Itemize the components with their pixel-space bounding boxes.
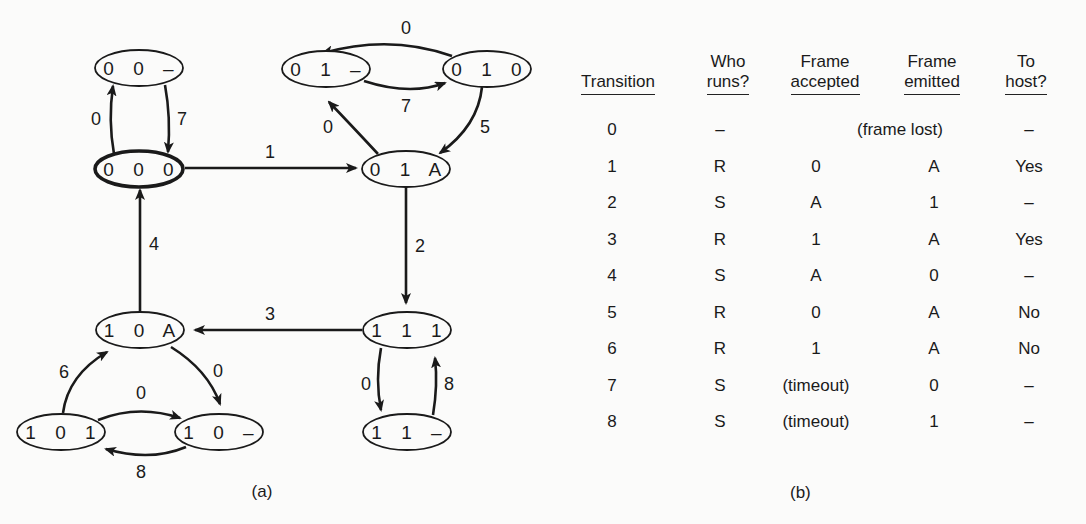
cell-to-host: Yes <box>989 157 1069 177</box>
state-diagram: 0 0 – 0 0 0 0 1 – 0 1 0 0 1 A 1 0 A 1 1 … <box>0 0 560 524</box>
cell-transition: 8 <box>572 412 652 432</box>
cell-to-host: – <box>989 266 1069 286</box>
edge-label-010-01-: 0 <box>401 18 411 38</box>
state-label-10A: 1 0 A <box>104 320 182 341</box>
edge-label-010-01A: 5 <box>480 117 490 137</box>
header-to-host: To host? <box>990 52 1062 95</box>
edge-label-101-10A: 6 <box>59 362 69 382</box>
edge-label-101-10-: 0 <box>136 383 146 403</box>
edge-label-111-11-: 0 <box>361 374 371 394</box>
caption-a: (a) <box>252 482 273 501</box>
state-label-101: 1 0 1 <box>25 422 102 443</box>
state-label-01-: 0 1 – <box>290 59 367 80</box>
cell-to-host: – <box>989 120 1069 140</box>
edge-label-10--101: 8 <box>136 462 146 482</box>
state-label-11-: 1 1 – <box>371 422 448 443</box>
edge-111-to-11- <box>378 348 381 410</box>
header-who-runs: Who runs? <box>688 52 768 95</box>
edge-label-111-10A: 3 <box>265 304 275 324</box>
edge-label-00--000: 7 <box>177 109 187 129</box>
cell-transition: 1 <box>572 157 652 177</box>
cell-transition: 3 <box>572 230 652 250</box>
edge-label-10A-000: 4 <box>149 234 159 254</box>
cell-to-host: – <box>989 376 1069 396</box>
edge-label-10A-10-: 0 <box>213 361 223 381</box>
edge-11--to-111 <box>433 358 436 415</box>
state-label-010: 0 1 0 <box>451 59 528 80</box>
edge-label-000-00-: 0 <box>91 109 101 129</box>
header-frame-emitted: Frame emitted <box>882 52 982 95</box>
state-label-111: 1 1 1 <box>371 320 448 341</box>
cell-transition: 0 <box>572 120 652 140</box>
cell-transition: 2 <box>572 193 652 213</box>
edge-label-000-01A: 1 <box>265 142 275 162</box>
cell-to-host: No <box>989 339 1069 359</box>
state-label-01A: 0 1 A <box>370 159 448 180</box>
cell-accepted: (frame lost) <box>830 120 970 140</box>
cell-transition: 4 <box>572 266 652 286</box>
transition-table: Transition Who runs? Frame accepted Fram… <box>560 0 1086 524</box>
edge-010-to-01A <box>440 87 482 153</box>
cell-to-host: No <box>989 303 1069 323</box>
cell-to-host: – <box>989 193 1069 213</box>
state-label-10-: 1 0 – <box>183 422 260 443</box>
edge-label-11--111: 8 <box>444 374 454 394</box>
cell-to-host: – <box>989 412 1069 432</box>
state-label-00-: 0 0 – <box>103 58 180 79</box>
edge-label-01A-111: 2 <box>415 236 425 256</box>
edge-000-to-00- <box>111 86 114 154</box>
edge-label-01--010: 7 <box>401 96 411 116</box>
cell-who: – <box>680 120 760 140</box>
edge-01A-to-01- <box>329 102 378 154</box>
edge-01--to-010 <box>364 81 445 89</box>
header-transition: Transition <box>560 72 676 95</box>
caption-b: (b) <box>790 483 811 503</box>
cell-to-host: Yes <box>989 230 1069 250</box>
state-label-000: 0 0 0 <box>103 159 180 180</box>
cell-transition: 7 <box>572 376 652 396</box>
edge-label-01A-01-: 0 <box>323 117 333 137</box>
header-frame-accepted: Frame accepted <box>770 52 880 95</box>
cell-transition: 5 <box>572 303 652 323</box>
edge-101-to-10A <box>63 352 107 413</box>
edge-10--to-101 <box>106 447 186 455</box>
edge-00--to-000 <box>165 85 169 152</box>
cell-transition: 6 <box>572 339 652 359</box>
edge-101-to-10- <box>98 411 180 420</box>
